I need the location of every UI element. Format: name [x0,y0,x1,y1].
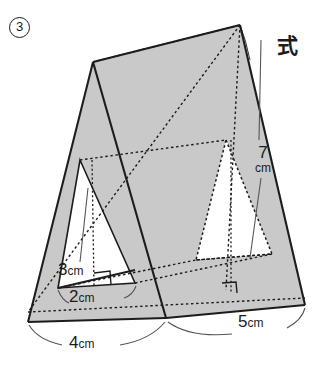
dimension-4cm-unit: cm [78,337,94,351]
problem-index: 3 [9,16,30,38]
dimension-5cm-unit: cm [247,316,263,330]
dimension-label-2cm: 2cm [69,288,94,305]
problem-index-number: 3 [9,17,30,38]
dimension-7cm-value: 7 [252,144,274,161]
dimension-label-4cm: 4cm [69,334,94,351]
dimension-3cm-unit: cm [67,264,83,278]
dimension-label-5cm: 5cm [238,313,263,330]
figure-page: 3 式 7 cm 3cm 2cm 4cm 5cm [0,0,322,369]
dimension-label-3cm: 3cm [58,261,83,278]
dimension-7cm-unit: cm [252,162,274,174]
annotation-shiki: 式 [277,36,298,57]
dimension-2cm-unit: cm [78,291,94,305]
arc-4cm-right [120,322,165,345]
dimension-label-7cm: 7 cm [252,144,274,174]
arc-4cm-left [29,325,62,345]
geometric-figure [0,0,322,369]
arc-5cm-left [168,322,232,335]
arc-5cm-right [287,308,305,328]
